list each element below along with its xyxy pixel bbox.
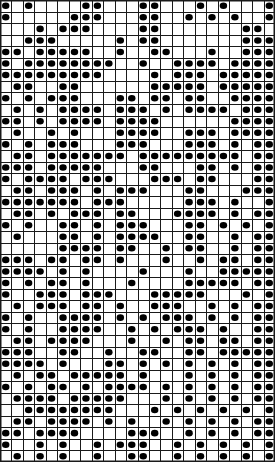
dot-grid-canvas[interactable] [0,0,275,462]
pattern-chart-container: Dot Grid Pattern Chart Monochrome 24 by … [0,0,275,462]
